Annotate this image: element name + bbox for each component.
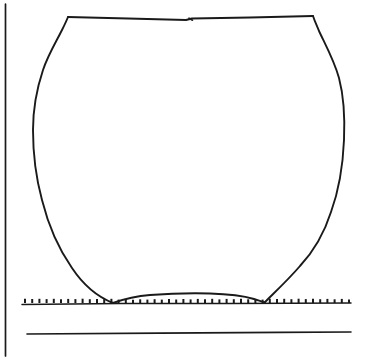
drawing-background xyxy=(0,0,366,360)
vessel-profile-figure xyxy=(0,0,366,360)
vessel-profile-drawing xyxy=(0,0,366,360)
